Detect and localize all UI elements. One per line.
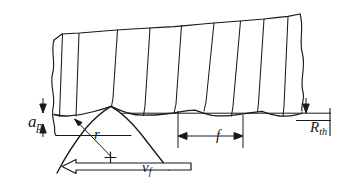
diagram-canvas bbox=[0, 0, 351, 187]
feed-arrowhead-right bbox=[234, 133, 243, 140]
roughness-height-label: Rth bbox=[310, 120, 327, 135]
depth-of-cut-symbol: a bbox=[28, 112, 37, 131]
right-break-edge bbox=[300, 14, 304, 111]
groove-line bbox=[76, 33, 79, 116]
groove-line bbox=[283, 16, 288, 116]
nose-radius-label: r bbox=[94, 127, 100, 142]
roughness-height-symbol: R bbox=[310, 119, 319, 135]
feed-symbol: f bbox=[216, 127, 220, 143]
groove-line bbox=[174, 26, 182, 114]
feed-velocity-arrow bbox=[62, 160, 191, 174]
depth-of-cut-subscript: p bbox=[37, 120, 43, 133]
left-break-edge bbox=[52, 40, 56, 136]
feed-velocity-subscript: f bbox=[149, 166, 152, 177]
feed-velocity-label: vf bbox=[142, 160, 152, 175]
turning-surface-roughness-figure: ap Rth f r vf bbox=[0, 0, 351, 187]
ap-arrowhead-top bbox=[40, 104, 46, 113]
nose-radius-leader bbox=[75, 119, 111, 156]
feed-label: f bbox=[216, 128, 220, 143]
nose-radius-symbol: r bbox=[94, 126, 100, 142]
tool-center-mark bbox=[105, 152, 116, 163]
groove-line bbox=[204, 23, 214, 111]
groove-line bbox=[258, 19, 265, 112]
feed-arrowhead-left bbox=[178, 133, 187, 140]
feed-dimension bbox=[178, 111, 243, 148]
roughness-height-subscript: th bbox=[319, 126, 327, 137]
groove-line bbox=[60, 34, 63, 117]
feed-velocity-symbol: v bbox=[142, 159, 149, 175]
groove-line bbox=[232, 21, 241, 116]
groove-line bbox=[144, 28, 151, 116]
depth-of-cut-label: ap bbox=[28, 113, 42, 130]
groove-line bbox=[112, 30, 118, 107]
rth-arrowhead bbox=[303, 104, 309, 113]
